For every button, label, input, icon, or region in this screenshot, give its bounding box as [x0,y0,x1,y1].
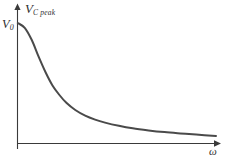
y-axis-arrowhead [14,4,20,11]
y-axis-symbol: V [25,1,33,16]
y-axis [14,4,20,150]
plot-canvas [0,0,233,162]
y-value-subscript: 0 [10,23,14,32]
response-curve [18,23,216,136]
y-axis-subscript: C peak [33,8,55,17]
figure-container: VC peak V0 ω [0,0,233,162]
y-axis-value-label: V0 [2,18,14,32]
y-value-symbol: V [2,17,10,31]
y-axis-label: VC peak [25,2,55,17]
x-axis-label: ω [209,146,217,157]
x-axis [17,140,221,146]
